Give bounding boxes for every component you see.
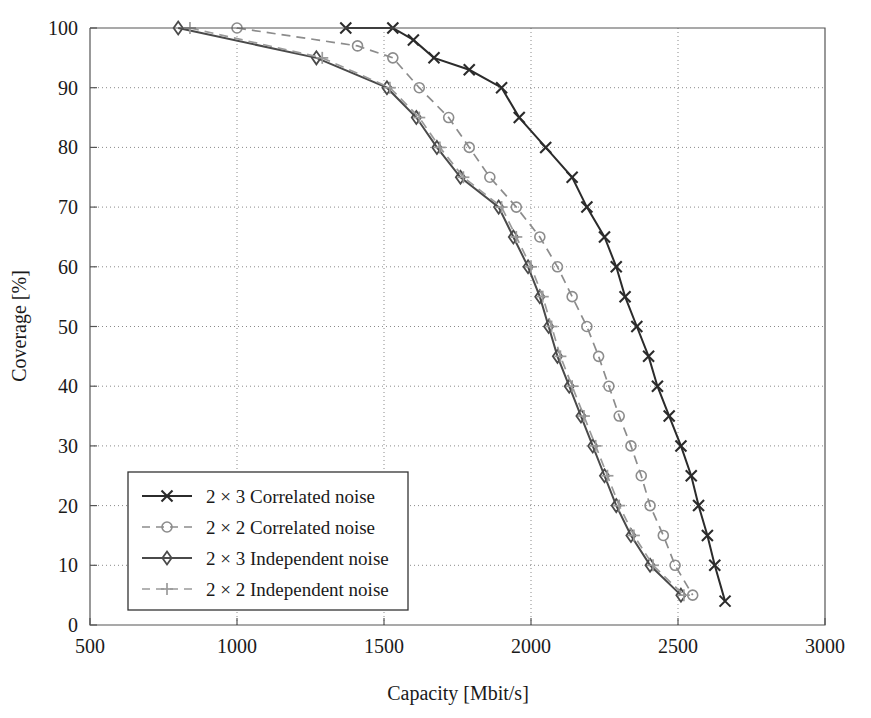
legend-label: 2 × 2 Correlated noise [206,517,375,538]
x-tick-label-500: 500 [75,635,105,657]
legend-label: 2 × 3 Independent noise [206,548,389,569]
y-tick-label-80: 80 [58,136,78,158]
data-point-x-marker [720,596,731,607]
data-point-x-marker [428,52,439,63]
legend-label: 2 × 2 Independent noise [206,579,389,600]
data-point-x-marker [675,440,686,451]
data-point-x-marker [631,321,642,332]
y-axis-title: Coverage [%] [8,270,31,382]
legend-label: 2 × 3 Correlated noise [206,486,375,507]
data-point-x-marker [599,231,610,242]
x-tick-label-1500: 1500 [364,635,404,657]
y-tick-label-60: 60 [58,256,78,278]
data-point-x-marker [514,112,525,123]
data-point-circle-marker [594,351,604,361]
data-point-circle-marker [658,530,668,540]
x-tick-label-3000: 3000 [805,635,845,657]
data-point-x-marker [664,411,675,422]
data-point-circle-marker [485,172,495,182]
data-point-x-marker [408,34,419,45]
y-tick-label-20: 20 [58,495,78,517]
x-axis-title: Capacity [Mbit/s] [387,682,529,705]
data-point-x-marker [652,381,663,392]
chart-svg: 0102030405060708090100500100015002000250… [0,0,871,718]
y-tick-label-100: 100 [48,17,78,39]
data-point-x-marker [540,142,551,153]
legend[interactable]: 2 × 3 Correlated noise2 × 2 Correlated n… [128,472,408,610]
data-point-x-marker [496,82,507,93]
data-point-x-marker [567,172,578,183]
y-tick-label-30: 30 [58,435,78,457]
data-point-x-marker [643,351,654,362]
x-tick-label-1000: 1000 [217,635,257,657]
y-tick-label-70: 70 [58,196,78,218]
y-tick-label-90: 90 [58,77,78,99]
x-tick-label-2500: 2500 [658,635,698,657]
y-tick-label-0: 0 [68,614,78,636]
y-tick-label-10: 10 [58,554,78,576]
chart-figure: 0102030405060708090100500100015002000250… [0,0,871,718]
data-point-circle-marker [388,53,398,63]
x-tick-label-2000: 2000 [511,635,551,657]
data-point-x-marker [611,261,622,272]
y-tick-label-40: 40 [58,375,78,397]
data-point-x-marker [464,64,475,75]
y-tick-label-50: 50 [58,316,78,338]
data-point-circle-marker [567,292,577,302]
data-point-x-marker [620,291,631,302]
